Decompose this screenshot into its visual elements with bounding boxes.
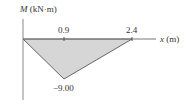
y-axis-unit: (kN·m) [30,4,57,14]
tick-label-0.9: 0.9 [58,26,69,35]
y-axis-symbol: M [20,4,28,14]
x-axis-label: x (m) [160,35,179,44]
y-axis-label: M (kN·m) [20,5,57,14]
min-moment-label: −9.00 [53,84,74,93]
x-axis-symbol: x [160,34,164,44]
x-axis-unit: (m) [166,34,179,44]
moment-region [23,39,132,79]
tick-label-2.4: 2.4 [126,26,137,35]
moment-diagram-svg [0,0,190,110]
